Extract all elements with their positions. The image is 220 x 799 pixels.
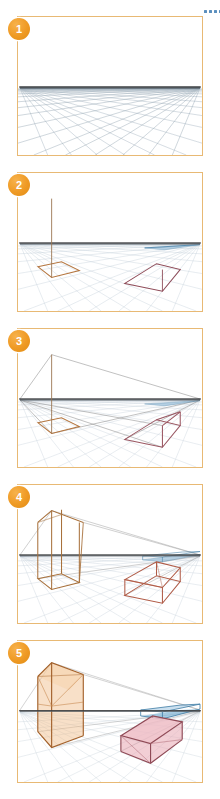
panel-3-drawing xyxy=(18,329,202,467)
panel-step-5 xyxy=(17,640,203,783)
step-badge-1: 1 xyxy=(8,18,30,40)
step-badge-5: 5 xyxy=(8,642,30,664)
right-box-wireframe xyxy=(125,562,180,603)
panel-4-drawing xyxy=(18,485,202,623)
tutorial-figure: 1 xyxy=(0,0,220,799)
left-box-shaded xyxy=(38,663,84,748)
marker-dot xyxy=(209,10,212,13)
panel-5-drawing xyxy=(18,641,202,782)
blue-marker-dots xyxy=(204,10,220,13)
panel-1-drawing xyxy=(18,17,202,155)
panel-step-1 xyxy=(17,16,203,156)
panel-step-4 xyxy=(17,484,203,624)
step-badge-4: 4 xyxy=(8,486,30,508)
panel-step-3 xyxy=(17,328,203,468)
marker-dot xyxy=(204,10,207,13)
step-badge-3: 3 xyxy=(8,330,30,352)
panel-2-drawing xyxy=(18,173,202,311)
step-badge-2: 2 xyxy=(8,174,30,196)
marker-dot xyxy=(219,10,220,13)
marker-dot xyxy=(214,10,217,13)
panel-step-2 xyxy=(17,172,203,312)
